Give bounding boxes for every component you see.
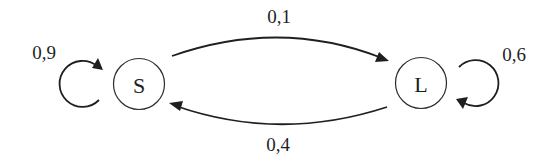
edge-l-s-arc bbox=[176, 106, 387, 124]
edge-l-to-s: 0,4 bbox=[169, 101, 387, 155]
markov-chain-diagram: S L 0,9 0,1 0,4 0,6 bbox=[0, 0, 553, 156]
edge-s-to-l: 0,1 bbox=[172, 6, 389, 62]
edge-s-l-arc bbox=[172, 37, 382, 58]
arrowhead-icon bbox=[375, 52, 389, 62]
arrowhead-icon bbox=[169, 101, 183, 111]
edge-l-to-l: 0,6 bbox=[456, 44, 526, 109]
edge-label-l-s: 0,4 bbox=[266, 134, 290, 155]
node-s: S bbox=[114, 59, 165, 110]
edge-label-s-l: 0,1 bbox=[267, 6, 291, 27]
edge-label-l-l: 0,6 bbox=[502, 44, 526, 65]
node-l: L bbox=[396, 58, 447, 109]
edge-label-s-s: 0,9 bbox=[32, 42, 56, 63]
arrowhead-icon bbox=[456, 97, 468, 109]
edge-s-to-s: 0,9 bbox=[32, 42, 103, 107]
node-l-label: L bbox=[414, 72, 427, 97]
node-s-label: S bbox=[133, 73, 145, 98]
